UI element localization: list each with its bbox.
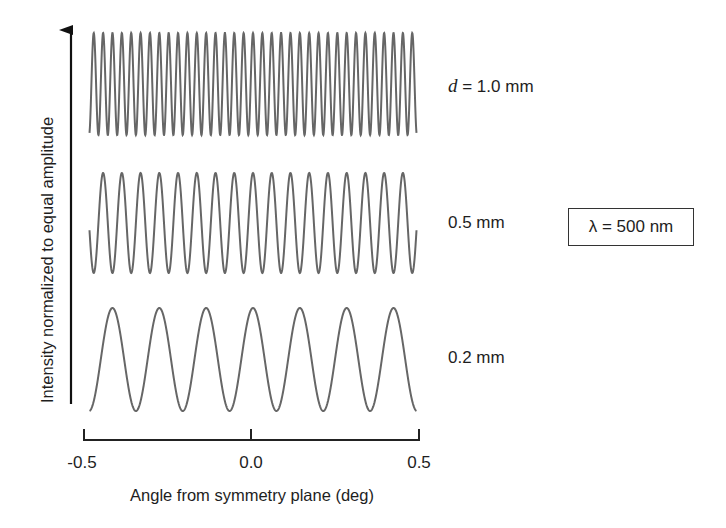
series-label-value: = 1.0 mm [458, 77, 534, 96]
wavelength-annotation-box: λ = 500 nm [568, 208, 694, 246]
series-label-d-0.2mm: 0.2 mm [448, 349, 505, 366]
x-axis-label: Angle from symmetry plane (deg) [130, 487, 374, 504]
x-tick-label-neg-0.5: -0.5 [67, 454, 96, 471]
series-line-d-1.0mm [90, 33, 417, 135]
series-label-d-1.0mm: d = 1.0 mm [448, 76, 534, 95]
series-label-d-0.5mm: 0.5 mm [448, 214, 505, 231]
series-line-d-0.2mm [90, 308, 417, 411]
x-tick-label-0.5: 0.5 [407, 454, 431, 471]
x-tick-label-0.0: 0.0 [239, 454, 263, 471]
series-line-d-0.5mm [90, 173, 417, 273]
d-symbol: d [448, 75, 458, 96]
chart-plot-area [0, 0, 726, 528]
x-axis [83, 429, 420, 441]
y-axis-label: Intensity normalized to equal amplitude [39, 117, 56, 403]
